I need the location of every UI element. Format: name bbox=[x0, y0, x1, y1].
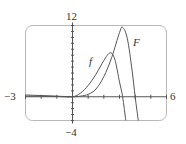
curve-f bbox=[26, 53, 126, 121]
y-max-label: 12 bbox=[66, 11, 77, 22]
chart-canvas bbox=[0, 0, 186, 144]
plot-frame bbox=[26, 26, 167, 121]
x-max-label: 6 bbox=[170, 91, 176, 102]
curve-F bbox=[26, 27, 139, 121]
x-min-label: −3 bbox=[4, 91, 16, 102]
curve-F-label: F bbox=[133, 37, 140, 48]
y-min-label: −4 bbox=[65, 127, 77, 138]
curve-f-label: f bbox=[89, 56, 92, 67]
y-axis bbox=[71, 23, 74, 124]
